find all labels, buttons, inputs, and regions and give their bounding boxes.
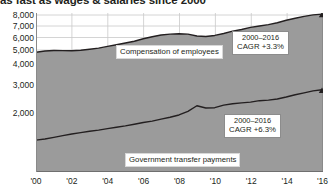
- x-tick-10: '10: [200, 176, 230, 186]
- cagr-value-transfers: CAGR +6.3%: [229, 125, 276, 135]
- series-label-transfers: Government transfer payments: [125, 153, 240, 167]
- y-tick-6000: 6,000: [0, 34, 34, 42]
- cagr-callout-transfers: 2000–2016 CAGR +6.3%: [224, 114, 281, 138]
- y-tick-5000: 5,000: [0, 46, 34, 54]
- series-label-compensation: Compensation of employees: [116, 45, 223, 59]
- x-tick-06: '06: [129, 176, 159, 186]
- x-tick-16: '16: [308, 176, 333, 186]
- x-tick-02: '02: [57, 176, 87, 186]
- x-tick-08: '08: [165, 176, 195, 186]
- chart-title: as fast as wages & salaries since 2000: [0, 0, 323, 10]
- y-tick-4000: 4,000: [0, 60, 34, 68]
- cagr-callout-compensation: 2000–2016 CAGR +3.3%: [232, 31, 289, 55]
- cagr-period-compensation: 2000–2016: [237, 33, 284, 42]
- y-tick-8000: 8,000: [0, 11, 34, 19]
- x-tick-14: '14: [272, 176, 302, 186]
- cagr-period-transfers: 2000–2016: [229, 116, 276, 125]
- x-tick-04: '04: [93, 176, 123, 186]
- y-tick-3000: 3,000: [0, 81, 34, 89]
- y-tick-7000: 7,000: [0, 22, 34, 30]
- plot-area: 8,000 7,000 6,000 5,000 4,000 3,000 2,00…: [36, 13, 323, 172]
- cagr-value-compensation: CAGR +3.3%: [237, 42, 284, 52]
- x-tick-12: '12: [236, 176, 266, 186]
- y-tick-2000: 2,000: [0, 109, 34, 117]
- x-tick-00: '00: [21, 176, 51, 186]
